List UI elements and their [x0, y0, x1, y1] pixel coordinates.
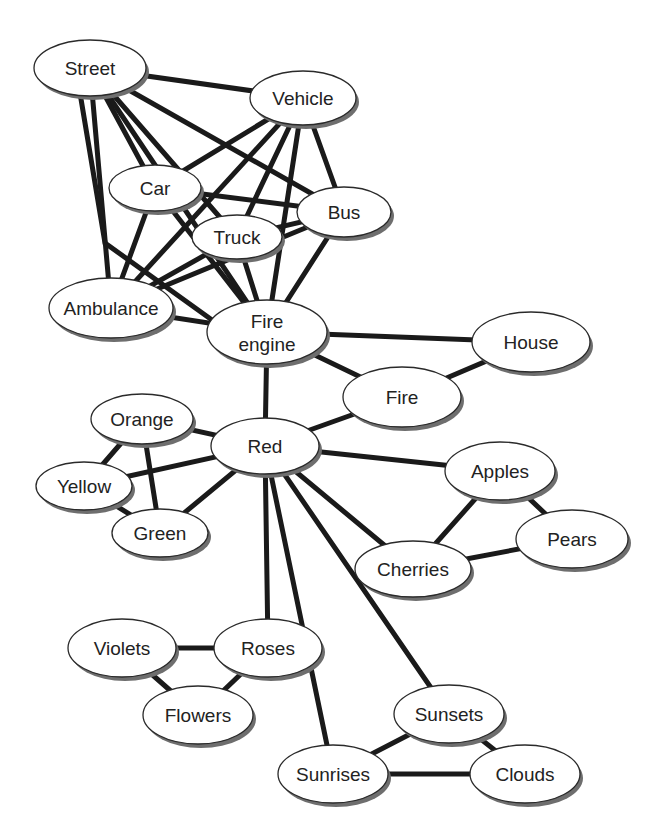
- node-label: Violets: [94, 638, 151, 659]
- node-label: Clouds: [495, 764, 554, 785]
- node-sunrises[interactable]: Sunrises: [278, 745, 391, 807]
- node-apples[interactable]: Apples: [445, 442, 558, 504]
- node-label: Yellow: [57, 476, 112, 497]
- node-car[interactable]: Car: [109, 165, 204, 215]
- node-label: Ambulance: [63, 298, 158, 319]
- node-violets[interactable]: Violets: [68, 619, 179, 681]
- node-label: House: [504, 332, 559, 353]
- node-label: Car: [140, 178, 171, 199]
- node-label: Sunsets: [415, 704, 484, 725]
- semantic-network-diagram: StreetVehicleCarBusTruckAmbulanceFireeng…: [0, 0, 658, 837]
- node-label: Sunrises: [296, 764, 370, 785]
- node-fire-engine[interactable]: Fireengine: [207, 300, 330, 368]
- node-pears[interactable]: Pears: [516, 510, 631, 572]
- node-label: Truck: [214, 227, 261, 248]
- node-label: Vehicle: [272, 88, 333, 109]
- node-sunsets[interactable]: Sunsets: [394, 685, 507, 747]
- node-label: Orange: [110, 409, 173, 430]
- node-bus[interactable]: Bus: [297, 187, 394, 241]
- node-fire[interactable]: Fire: [343, 367, 464, 431]
- node-label: engine: [238, 334, 295, 355]
- node-roses[interactable]: Roses: [214, 619, 325, 681]
- node-label: Pears: [547, 529, 597, 550]
- node-label: Green: [134, 523, 187, 544]
- node-label: Flowers: [165, 705, 232, 726]
- node-label: Roses: [241, 638, 295, 659]
- node-clouds[interactable]: Clouds: [470, 745, 583, 807]
- node-house[interactable]: House: [472, 312, 593, 376]
- node-cherries[interactable]: Cherries: [355, 541, 474, 601]
- node-orange[interactable]: Orange: [91, 394, 196, 448]
- node-label: Street: [65, 58, 116, 79]
- node-flowers[interactable]: Flowers: [143, 686, 256, 748]
- node-yellow[interactable]: Yellow: [36, 462, 135, 514]
- node-label: Fire: [386, 387, 419, 408]
- node-ambulance[interactable]: Ambulance: [49, 278, 176, 342]
- node-label: Bus: [328, 202, 361, 223]
- node-label: Fire: [251, 311, 284, 332]
- node-green[interactable]: Green: [112, 509, 211, 561]
- node-street[interactable]: Street: [34, 40, 149, 100]
- node-red[interactable]: Red: [211, 418, 322, 478]
- node-label: Cherries: [377, 559, 449, 580]
- node-label: Red: [248, 436, 283, 457]
- node-label: Apples: [471, 461, 529, 482]
